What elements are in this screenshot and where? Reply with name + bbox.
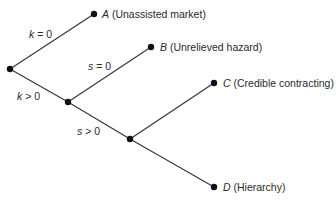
outcome-label-d: D (Hierarchy) — [223, 181, 285, 193]
outcome-letter-a: A — [101, 8, 109, 20]
edge-label-s-zero: s = 0 — [88, 60, 111, 72]
outcome-node-d — [211, 184, 217, 190]
outcome-label-c: C (Credible contracting) — [223, 77, 334, 89]
decision-node-k — [65, 99, 71, 105]
edge-n3-to-C — [130, 83, 214, 139]
outcome-text-b: (Unrelieved hazard) — [167, 41, 262, 53]
outcome-text-a: (Unassisted market) — [109, 8, 206, 20]
edge-label-k-positive: k > 0 — [17, 90, 40, 102]
edge-label-k-zero-cond: = 0 — [34, 28, 52, 40]
outcome-label-b: B (Unrelieved hazard) — [160, 41, 262, 53]
outcome-label-a: A (Unassisted market) — [101, 8, 206, 20]
edge-label-s-positive-cond: > 0 — [82, 125, 100, 137]
outcome-node-b — [148, 44, 154, 50]
outcome-node-a — [91, 11, 97, 17]
edge-root-to-A — [10, 14, 94, 69]
root-node — [7, 66, 13, 72]
outcome-letter-b: B — [160, 41, 167, 53]
edge-n2-to-B — [68, 47, 151, 102]
edge-n3-to-D — [130, 139, 214, 187]
outcome-text-d: (Hierarchy) — [231, 181, 286, 193]
outcome-node-c — [211, 80, 217, 86]
edge-label-k-positive-cond: > 0 — [22, 90, 40, 102]
edge-label-s-positive: s > 0 — [77, 125, 100, 137]
outcome-text-c: (Credible contracting) — [231, 77, 334, 89]
edge-label-s-zero-cond: = 0 — [93, 60, 111, 72]
edge-label-k-zero: k = 0 — [29, 28, 52, 40]
decision-node-s — [127, 136, 133, 142]
decision-tree-diagram: A (Unassisted market) B (Unrelieved haza… — [0, 0, 336, 203]
